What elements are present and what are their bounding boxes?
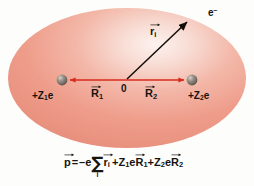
- origin-label: 0: [121, 84, 127, 94]
- charge-suffix: e: [48, 90, 54, 101]
- vector-ri-index: i: [154, 30, 156, 39]
- vector-ri-letter: r: [150, 25, 154, 37]
- dipole-moment-figure: e− ri 0 R1 R2 +Z1e +Z2e p = –e∑iri +Z1eR…: [0, 0, 254, 186]
- vector-arrow-overbar-R1-formula: R: [135, 157, 143, 168]
- vector-arrow-overbar-R2: R: [145, 88, 153, 99]
- formula-p: p: [64, 156, 71, 168]
- nucleus-left: [57, 75, 68, 86]
- vector-arrow-overbar-r: r: [103, 157, 107, 168]
- charge-prefix: +Z: [188, 90, 200, 101]
- vector-R1-letter: R: [91, 87, 99, 99]
- vector-R1-label: R1: [91, 88, 103, 100]
- vector-arrow-overbar-R1: R: [91, 88, 99, 99]
- vector-R2-index: 2: [153, 92, 157, 101]
- dipole-moment-formula: p = –e∑iri +Z1eR1+Z2eR2: [64, 156, 183, 171]
- formula-R1: R: [135, 156, 143, 168]
- formula-R2: R: [171, 156, 179, 168]
- nucleus-left-charge-label: +Z1e: [32, 91, 53, 102]
- formula-r: r: [103, 156, 107, 168]
- vector-arrow-overbar-ri: r: [150, 26, 154, 37]
- vector-R2-letter: R: [145, 87, 153, 99]
- vector-R2-label: R2: [145, 88, 157, 100]
- vector-ri-label: ri: [150, 26, 156, 38]
- charge-suffix: e: [204, 90, 210, 101]
- nucleus-right-charge-label: +Z2e: [188, 91, 209, 102]
- electron-charge-superscript: −: [214, 7, 218, 14]
- formula-R2-index: 2: [179, 160, 183, 169]
- electron-label: e−: [208, 8, 218, 18]
- vector-R1-index: 1: [99, 92, 103, 101]
- formula-minus-e: –e: [79, 156, 91, 168]
- vector-arrow-overbar-R2-formula: R: [171, 157, 179, 168]
- vector-arrow-overbar-p: p: [64, 157, 71, 168]
- nucleus-right: [187, 75, 198, 86]
- formula-Z2: Z: [154, 156, 161, 168]
- sigma-index: i: [96, 171, 98, 178]
- charge-prefix: +Z: [32, 90, 44, 101]
- sigma-icon: ∑: [91, 153, 103, 173]
- formula-summation: ∑i: [91, 156, 103, 171]
